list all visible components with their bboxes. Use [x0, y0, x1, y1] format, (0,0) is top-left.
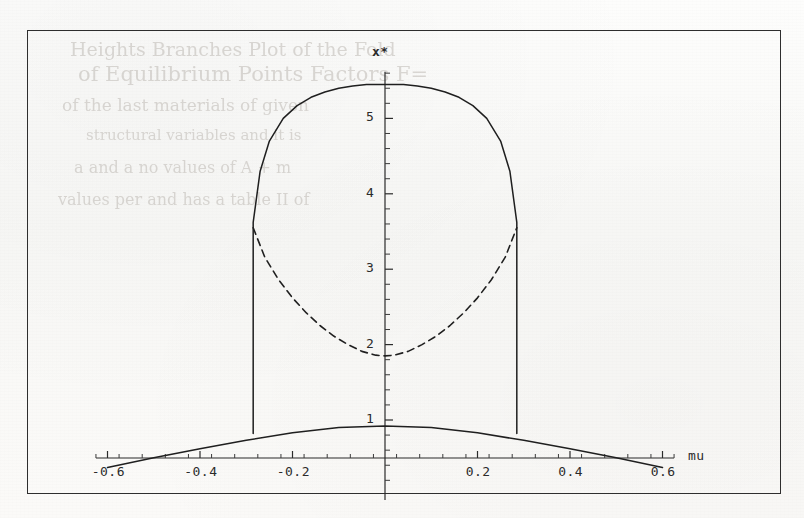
- x-tick-label: 0.6: [651, 464, 676, 479]
- y-tick-label: 1: [366, 411, 374, 426]
- y-tick-label: 5: [366, 109, 374, 124]
- x-tick-label: 0.4: [558, 464, 583, 479]
- y-tick-label: 2: [366, 336, 374, 351]
- x-tick-label: -0.4: [184, 464, 217, 479]
- x-tick-label: 0.2: [466, 464, 491, 479]
- x-tick-label: -0.2: [277, 464, 310, 479]
- bifurcation-plot: [0, 0, 804, 518]
- y-axis-label: x*: [372, 44, 389, 59]
- y-tick-label: 4: [366, 185, 374, 200]
- x-axis-label: mu: [688, 448, 705, 463]
- y-tick-label: 3: [366, 260, 374, 275]
- x-tick-label: -0.6: [92, 464, 125, 479]
